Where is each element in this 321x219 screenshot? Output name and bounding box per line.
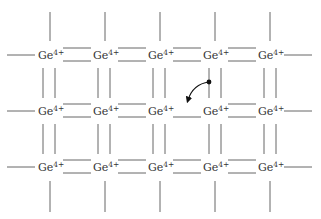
bottom-dangling-bonds [50,181,270,212]
ion-r2c4: Ge4+ [258,160,284,174]
vertical-bonds-row1-row2 [43,124,276,154]
ion-r0c4: Ge4+ [258,48,284,62]
germanium-lattice-diagram: Ge4+ Ge4+ Ge4+ Ge4+ Ge4+ Ge4+ Ge4+ Ge4+ … [0,0,321,219]
ion-r0c2: Ge4+ [148,48,174,62]
ion-r2c1: Ge4+ [93,160,119,174]
ion-r1c1: Ge4+ [93,104,119,118]
ion-r1c0: Ge4+ [38,104,64,118]
ion-r0c1: Ge4+ [93,48,119,62]
vertical-bonds-row0-row1 [43,68,276,98]
top-dangling-bonds [50,12,270,41]
left-dangling-bonds [7,55,35,167]
right-dangling-bonds [284,55,312,167]
ion-r0c3: Ge4+ [203,48,229,62]
ion-r1c4: Ge4+ [258,104,284,118]
ion-r0c0: Ge4+ [38,48,64,62]
electron-hole-transition [188,80,211,100]
ion-r1c2: Ge4+ [148,104,174,118]
curved-arrow-icon [188,82,209,100]
ion-r2c3: Ge4+ [203,160,229,174]
ion-r1c3: Ge4+ [203,104,229,118]
ion-r2c2: Ge4+ [148,160,174,174]
electron-dot-icon [207,80,212,85]
ion-labels: Ge4+ Ge4+ Ge4+ Ge4+ Ge4+ Ge4+ Ge4+ Ge4+ … [38,48,284,174]
ion-r2c0: Ge4+ [38,160,64,174]
